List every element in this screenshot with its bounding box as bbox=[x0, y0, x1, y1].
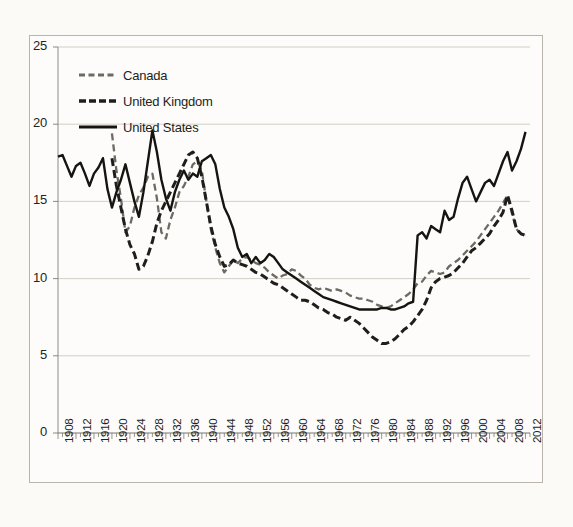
x-tick-label: 2008 bbox=[513, 419, 525, 443]
x-tick-label: 1956 bbox=[279, 419, 291, 443]
x-tick-label: 2000 bbox=[477, 419, 489, 443]
legend-swatch-canada-icon bbox=[78, 68, 118, 82]
x-tick-label: 1948 bbox=[243, 419, 255, 443]
legend-item-label: Canada bbox=[123, 68, 167, 83]
x-tick-label: 1964 bbox=[315, 419, 327, 443]
data-series-group bbox=[58, 130, 526, 343]
x-tick-label: 1936 bbox=[189, 419, 201, 443]
y-tick-label: 20 bbox=[21, 115, 47, 130]
x-tick-label: 1984 bbox=[405, 419, 417, 443]
x-tick-label: 1928 bbox=[153, 419, 165, 443]
x-tick-label: 1980 bbox=[387, 419, 399, 443]
x-tick-label: 1960 bbox=[297, 419, 309, 443]
x-tick-label: 1932 bbox=[171, 419, 183, 443]
x-tick-label: 1972 bbox=[351, 419, 363, 443]
legend-swatch-united-kingdom-icon bbox=[78, 94, 118, 108]
x-tick-label: 1916 bbox=[99, 419, 111, 443]
x-tick-label: 1992 bbox=[441, 419, 453, 443]
legend-item: United Kingdom bbox=[78, 88, 263, 114]
x-tick-label: 2012 bbox=[531, 419, 543, 443]
x-tick-label: 1996 bbox=[459, 419, 471, 443]
series-line-united-states bbox=[58, 130, 526, 309]
y-tick-label: 15 bbox=[21, 192, 47, 207]
legend-item: Canada bbox=[78, 62, 263, 88]
legend-item: United States bbox=[78, 114, 263, 140]
legend-item-label: United Kingdom bbox=[123, 94, 213, 109]
x-tick-label: 1952 bbox=[261, 419, 273, 443]
x-tick-label: 1976 bbox=[369, 419, 381, 443]
x-tick-label: 1968 bbox=[333, 419, 345, 443]
y-tick-label: 25 bbox=[21, 38, 47, 53]
x-tick-label: 1908 bbox=[63, 419, 75, 443]
y-tick-label: 10 bbox=[21, 270, 47, 285]
x-tick-label: 1944 bbox=[225, 419, 237, 443]
x-tick-label: 1988 bbox=[423, 419, 435, 443]
x-tick-label: 1912 bbox=[81, 419, 93, 443]
x-tick-label: 1940 bbox=[207, 419, 219, 443]
chart-legend: CanadaUnited KingdomUnited States bbox=[78, 62, 263, 140]
x-tick-label: 2004 bbox=[495, 419, 507, 443]
y-tick-label: 0 bbox=[21, 424, 47, 439]
x-tick-label: 1920 bbox=[117, 419, 129, 443]
series-line-canada bbox=[112, 133, 526, 307]
legend-item-label: United States bbox=[123, 120, 198, 135]
y-tick-label: 5 bbox=[21, 347, 47, 362]
legend-swatch-united-states-icon bbox=[78, 120, 118, 134]
x-tick-label: 1924 bbox=[135, 419, 147, 443]
